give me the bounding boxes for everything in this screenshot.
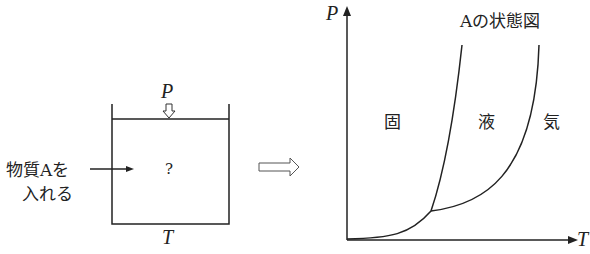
input-label-line1: 物質Aを <box>6 156 69 181</box>
container-temperature-label: T <box>162 226 173 249</box>
y-axis-arrowhead-icon <box>343 6 351 16</box>
x-axis-label: T <box>577 228 588 251</box>
melting-curve <box>431 45 462 211</box>
insert-arrowhead-icon <box>126 166 134 172</box>
transition-arrow-icon <box>259 158 299 176</box>
pressure-arrow-icon <box>163 104 175 118</box>
region-liquid: 液 <box>478 108 495 133</box>
region-solid: 固 <box>384 108 401 133</box>
y-axis-label: P <box>326 2 338 25</box>
sublimation-curve <box>347 211 431 239</box>
diagram-canvas <box>0 0 590 254</box>
region-gas: 気 <box>543 108 560 133</box>
container-content-label: ? <box>165 160 173 178</box>
chart-title: Aの状態図 <box>460 7 540 32</box>
container-pressure-label: P <box>161 80 173 103</box>
input-label-line2: 入れる <box>22 180 73 205</box>
chart-axes <box>347 14 570 240</box>
